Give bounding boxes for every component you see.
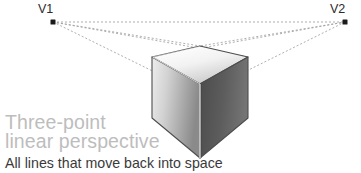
title-line-2: linear perspective xyxy=(5,130,160,152)
cube-group xyxy=(152,46,248,158)
diagram-caption: All lines that move back into space xyxy=(5,155,223,171)
vanishing-points-group: V1 V2 xyxy=(38,2,348,25)
construction-line-v1-top-apex xyxy=(53,22,200,46)
vanishing-point-v2-label: V2 xyxy=(330,2,345,16)
construction-line-v2-top-apex xyxy=(200,22,345,46)
vanishing-point-v2-dot[interactable] xyxy=(343,20,348,25)
vanishing-point-v1-dot[interactable] xyxy=(51,20,56,25)
perspective-diagram-canvas: V1 V2 Three-point linear perspective All… xyxy=(0,0,361,173)
vanishing-point-v1-label: V1 xyxy=(38,2,53,16)
perspective-diagram-svg: V1 V2 Three-point linear perspective All… xyxy=(0,0,361,173)
